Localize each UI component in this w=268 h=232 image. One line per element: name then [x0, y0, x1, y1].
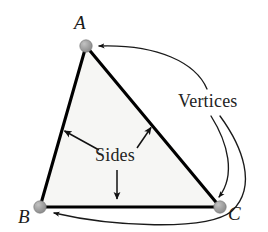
sides-callout-label: Sides [95, 146, 135, 164]
vertex-label-b: B [18, 207, 30, 226]
vertex-dot-a [80, 40, 92, 52]
vertices-callout-label: Vertices [178, 92, 238, 110]
geometry-figure: A B C Sides Vertices [0, 0, 268, 232]
vertex-dot-b [34, 201, 46, 213]
figure-canvas [0, 0, 268, 232]
vertices-curve-c [211, 116, 228, 197]
vertex-dot-c [214, 201, 226, 213]
vertex-label-c: C [228, 204, 241, 223]
vertex-label-a: A [74, 13, 86, 32]
